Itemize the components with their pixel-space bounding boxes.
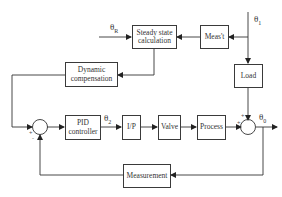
sum2-plus-sign-top: +: [241, 112, 245, 118]
ip-block: I/P: [122, 115, 141, 140]
theta-r-label: θR: [110, 22, 118, 34]
sum2-plus-sign-left: +: [237, 119, 241, 125]
measurement-label: Measurement: [127, 172, 168, 181]
theta-2-label: θ2: [104, 113, 111, 125]
steady-state-line2: calculation: [138, 36, 171, 45]
meast-block: Meas't: [200, 25, 229, 49]
valve-label: Valve: [161, 123, 178, 132]
summing-junction-2: [241, 120, 256, 135]
measurement-block: Measurement: [123, 164, 171, 188]
meast-label: Meas't: [205, 33, 225, 42]
theta-0-label: θ0: [259, 112, 266, 124]
steady-to-dynamic-arrow: [118, 49, 154, 75]
steady-state-calculation-block: Steady statecalculation: [132, 25, 177, 49]
process-block: Process: [197, 115, 226, 140]
dynamic-line2: compensation: [71, 74, 113, 83]
process-label: Process: [200, 123, 223, 132]
theta-1-label: θ1: [254, 14, 261, 26]
dynamic-compensation-block: Dynamiccompensation: [65, 62, 118, 87]
sum1-minus-sign: -: [32, 135, 34, 141]
valve-block: Valve: [158, 115, 181, 140]
load-label: Load: [241, 72, 256, 81]
load-block: Load: [234, 64, 263, 88]
measurement-to-sum1-arrow: [40, 135, 123, 175]
ip-label: I/P: [127, 123, 136, 132]
pid-line2: controller: [68, 127, 97, 136]
control-block-diagram: Steady statecalculation Meas't Load Dyna…: [0, 0, 282, 197]
pid-controller-block: PIDcontroller: [65, 115, 101, 140]
summing-junction-1: [33, 120, 48, 135]
